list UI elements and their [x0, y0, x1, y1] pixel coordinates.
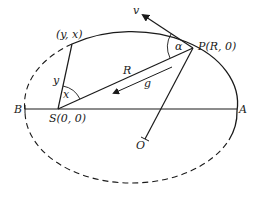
diagram-canvas: v P(R, 0) α (y, x) R g y x B S(0, 0) A O [0, 0, 260, 197]
label-point-yx: (y, x) [56, 28, 83, 41]
label-velocity: v [133, 4, 140, 17]
label-center-o: O [136, 139, 145, 152]
orbit-diagram: v P(R, 0) α (y, x) R g y x B S(0, 0) A O [0, 0, 260, 197]
angle-alpha-arc [168, 34, 171, 58]
label-angle-x: x [63, 88, 70, 101]
radius-line [58, 48, 193, 109]
label-side-y: y [52, 74, 60, 87]
label-point-p: P(R, 0) [197, 40, 236, 53]
label-vertex-a: A [238, 103, 247, 116]
label-gravity: g [144, 77, 151, 90]
label-focus-s: S(0, 0) [49, 112, 86, 125]
label-radius: R [122, 64, 131, 77]
normal-line [145, 48, 193, 139]
label-vertex-b: B [13, 103, 22, 116]
label-angle-alpha: α [175, 40, 183, 53]
